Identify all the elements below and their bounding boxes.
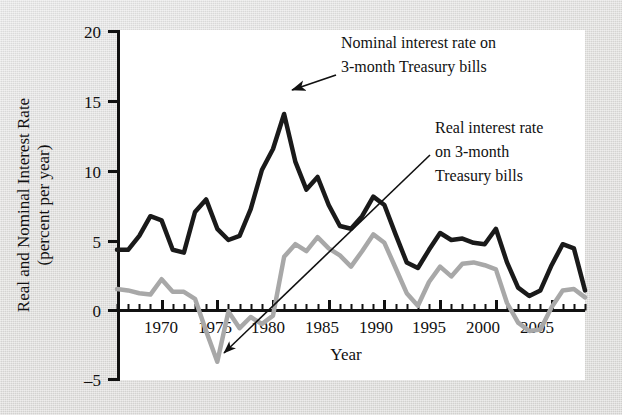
y-tick-label: 15 (84, 93, 101, 112)
y-tick-label: 0 (93, 302, 102, 321)
x-tick-label: 1995 (412, 318, 446, 337)
chart-figure: 20 15 10 5 0 –5 1970 1975 1980 1985 1990… (0, 0, 622, 415)
y-tick-label: –5 (83, 371, 101, 390)
x-tick-label: 1985 (305, 318, 339, 337)
real-annotation-line: on 3-month (435, 143, 509, 160)
real-annotation-line: Real interest rate (435, 119, 543, 136)
plot-area-background (117, 30, 585, 380)
y-axis-title-line1: Real and Nominal Interest Rate (14, 98, 33, 312)
y-tick-labels: 20 15 10 5 0 –5 (83, 23, 101, 390)
real-annotation-line: Treasury bills (435, 167, 523, 185)
x-tick-label: 2000 (466, 318, 500, 337)
x-tick-label: 1990 (359, 318, 393, 337)
y-tick-label: 10 (84, 163, 101, 182)
y-axis-title-line2: (percent per year) (34, 145, 53, 266)
nominal-annotation-line: 3-month Treasury bills (341, 58, 487, 76)
y-tick-label: 20 (84, 23, 101, 42)
nominal-annotation-line: Nominal interest rate on (341, 34, 496, 51)
y-tick-label: 5 (93, 233, 102, 252)
x-tick-label: 1970 (144, 318, 178, 337)
x-axis-title: Year (330, 345, 362, 364)
